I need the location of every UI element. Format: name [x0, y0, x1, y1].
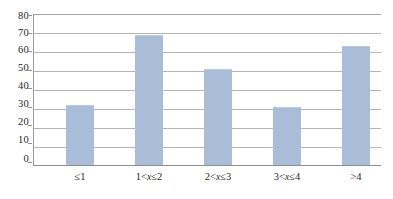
- y-axis-line: [33, 14, 34, 166]
- x-tick-label-1-to-2: 1<x≤2: [119, 170, 179, 184]
- y-tick-mark-80: [28, 15, 32, 16]
- y-tick-mark-40: [28, 88, 32, 89]
- y-tick-label-50: 50: [18, 63, 29, 73]
- y-tick-mark-0: [28, 162, 32, 163]
- y-tick-mark-10: [28, 143, 32, 144]
- bars-layer: [33, 14, 381, 166]
- bar-gt-4: [342, 46, 370, 165]
- x-label-text-le-1: ≤1: [74, 171, 85, 182]
- x-label-prefix-3-to-4: 3<: [274, 171, 285, 182]
- bar-1-to-2: [135, 35, 163, 165]
- x-label-suffix-2-to-3: ≤3: [220, 171, 231, 182]
- y-tick-mark-20: [28, 125, 32, 126]
- y-tick-mark-50: [28, 70, 32, 71]
- plot-area: [33, 14, 381, 166]
- x-tick-label-le-1: ≤1: [50, 170, 110, 183]
- x-axis-labels: ≤1 1<x≤2 2<x≤3 3<x≤4 >4: [33, 170, 381, 192]
- x-axis-line: [33, 165, 381, 166]
- y-tick-label-60: 60: [18, 45, 29, 55]
- y-tick-mark-30: [28, 107, 32, 108]
- y-tick-mark-70: [28, 33, 32, 34]
- x-label-text-gt-4: >4: [350, 171, 361, 182]
- bar-3-to-4: [273, 107, 301, 166]
- x-label-suffix-1-to-2: ≤2: [151, 171, 162, 182]
- x-label-prefix-1-to-2: 1<: [136, 171, 147, 182]
- y-tick-label-40: 40: [18, 81, 29, 91]
- x-label-suffix-3-to-4: ≤4: [289, 171, 300, 182]
- y-axis-labels: 80 70 60 50 40 30 20 10 0: [0, 0, 33, 199]
- y-tick-label-80: 80: [18, 11, 29, 21]
- bar-2-to-3: [204, 69, 232, 165]
- x-label-prefix-2-to-3: 2<: [205, 171, 216, 182]
- y-tick-mark-60: [28, 51, 32, 52]
- bar-le-1: [66, 105, 94, 165]
- bar-chart: 80 70 60 50 40 30 20 10 0: [0, 0, 393, 199]
- x-tick-label-3-to-4: 3<x≤4: [257, 170, 317, 184]
- x-tick-label-gt-4: >4: [326, 170, 386, 183]
- x-tick-label-2-to-3: 2<x≤3: [188, 170, 248, 184]
